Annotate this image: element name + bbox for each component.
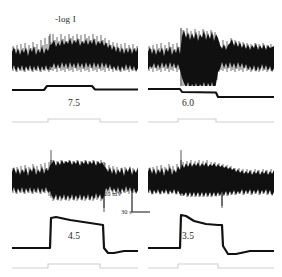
- panel-label-7-5: 7.5: [68, 98, 80, 108]
- electrophysiology-figure: -log I: [0, 0, 282, 277]
- panel-label-6-0: 6.0: [182, 98, 194, 108]
- panel-7-5-spike-trace: [12, 33, 138, 72]
- panel-4-5-spike-trace: [12, 148, 138, 208]
- panel-label-4-5: 4.5: [68, 231, 80, 241]
- panel-7-5-stimulus-marker: [12, 119, 138, 122]
- scale-bar-voltage-label: 20 mV: [104, 190, 122, 197]
- panel-label-3-5: 3.5: [182, 231, 194, 241]
- scale-bar-time-label: 30 s: [121, 208, 132, 215]
- panel-4-5-stimulus-marker: [12, 264, 138, 268]
- panel-7-5-voltage-trace: [12, 86, 138, 90]
- panel-6-0-stimulus-marker: [148, 119, 274, 122]
- intensity-axis-label: -log I: [55, 14, 76, 24]
- panel-3-5-spike-trace: [148, 148, 274, 206]
- recording-traces-canvas: [0, 0, 282, 277]
- panel-6-0-spike-trace: [148, 28, 274, 90]
- panel-6-0-voltage-trace: [148, 89, 274, 97]
- panel-3-5-voltage-trace: [148, 215, 274, 254]
- panel-3-5-stimulus-marker: [148, 264, 274, 268]
